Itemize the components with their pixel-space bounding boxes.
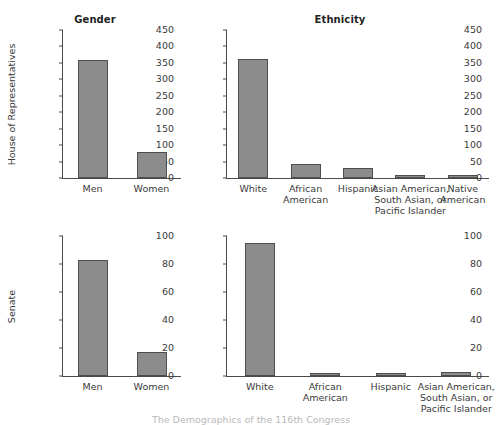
y-axis-tick: [223, 178, 227, 179]
y-axis-tick-label: 300: [156, 75, 174, 85]
y-axis-tick-label: 100: [156, 231, 174, 241]
figure-caption: The Demographics of the 116th Congress: [0, 414, 502, 425]
y-axis-label-house: House of Representatives: [6, 43, 17, 165]
x-axis-tick-label: Men: [64, 381, 122, 392]
bar: [238, 59, 268, 178]
bar: [291, 164, 321, 178]
y-axis-tick-label: 0: [168, 371, 174, 381]
x-axis-tick-label: Men: [64, 183, 122, 194]
y-axis-tick-label: 350: [464, 58, 482, 68]
y-axis-tick: [59, 145, 63, 146]
y-axis-tick-label: 60: [470, 287, 482, 297]
y-axis-tick-label: 250: [156, 91, 174, 101]
bar: [310, 373, 340, 376]
y-axis-tick-label: 450: [464, 25, 482, 35]
y-axis-tick-label: 80: [162, 259, 174, 269]
plot-area-senate-ethnicity: 020406080100WhiteAfrican AmericanHispani…: [226, 236, 489, 377]
y-axis-label-senate: Senate: [6, 289, 17, 322]
y-axis-tick: [223, 46, 227, 47]
y-axis-tick: [223, 348, 227, 349]
y-axis-tick: [59, 62, 63, 63]
y-axis-tick-label: 0: [168, 173, 174, 183]
y-axis-tick: [223, 112, 227, 113]
y-axis-tick: [59, 30, 63, 31]
x-axis-tick-label: Native American: [415, 183, 502, 205]
y-axis-tick-label: 300: [464, 75, 482, 85]
panel-senate-ethnicity: 020406080100WhiteAfrican AmericanHispani…: [190, 232, 502, 392]
y-axis-tick-label: 250: [464, 91, 482, 101]
y-axis-tick-label: 400: [156, 42, 174, 52]
y-axis-tick: [223, 161, 227, 162]
x-axis-tick-label: Women: [123, 381, 181, 392]
x-axis-tick-label: Asian American, South Asian, or Pacific …: [408, 381, 502, 414]
y-axis-tick: [59, 46, 63, 47]
bar: [78, 60, 108, 178]
x-axis-tick-label: Women: [123, 183, 181, 194]
y-axis-tick: [59, 95, 63, 96]
y-axis-tick: [59, 236, 63, 237]
bar: [137, 152, 167, 178]
y-axis-tick: [223, 95, 227, 96]
y-axis-tick-label: 150: [156, 124, 174, 134]
bar: [376, 373, 406, 376]
bar: [448, 175, 478, 178]
y-axis-tick-label: 100: [156, 140, 174, 150]
plot-area-senate-gender: 020406080100MenWomen: [62, 236, 181, 377]
y-axis-tick: [59, 376, 63, 377]
y-axis-tick-label: 350: [156, 58, 174, 68]
y-axis-tick-label: 150: [464, 124, 482, 134]
bar: [245, 243, 275, 376]
y-axis-tick: [223, 376, 227, 377]
y-axis-tick-label: 200: [156, 107, 174, 117]
y-axis-tick-label: 100: [464, 231, 482, 241]
y-axis-tick: [59, 292, 63, 293]
y-axis-tick: [223, 62, 227, 63]
y-axis-tick: [223, 30, 227, 31]
y-axis-tick: [223, 128, 227, 129]
bar: [78, 260, 108, 376]
y-axis-tick-label: 20: [470, 343, 482, 353]
y-axis-tick-label: 40: [470, 315, 482, 325]
y-axis-tick: [223, 79, 227, 80]
y-axis-tick: [59, 348, 63, 349]
y-axis-tick: [59, 264, 63, 265]
y-axis-tick: [59, 320, 63, 321]
y-axis-tick: [59, 79, 63, 80]
y-axis-tick-label: 80: [470, 259, 482, 269]
y-axis-tick: [223, 264, 227, 265]
bar: [395, 175, 425, 178]
plot-area-house-gender: 050100150200250300350400450MenWomen: [62, 30, 181, 179]
y-axis-tick: [59, 112, 63, 113]
y-axis-tick: [223, 292, 227, 293]
bar: [441, 372, 471, 376]
y-axis-tick: [59, 161, 63, 162]
y-axis-tick-label: 200: [464, 107, 482, 117]
y-axis-tick: [59, 128, 63, 129]
y-axis-tick: [223, 236, 227, 237]
panel-house-ethnicity: Ethnicity 050100150200250300350400450Whi…: [190, 14, 502, 190]
y-axis-tick-label: 40: [162, 315, 174, 325]
y-axis-tick-label: 50: [470, 157, 482, 167]
y-axis-tick-label: 60: [162, 287, 174, 297]
panel-house-gender: Gender House of Representatives 05010015…: [0, 14, 190, 190]
bar: [343, 168, 373, 178]
y-axis-tick-label: 0: [476, 371, 482, 381]
y-axis-tick: [59, 178, 63, 179]
panel-senate-gender: Senate 020406080100MenWomen: [0, 232, 190, 392]
panel-title-house-ethnicity: Ethnicity: [202, 14, 478, 25]
y-axis-tick-label: 400: [464, 42, 482, 52]
y-axis-tick-label: 100: [464, 140, 482, 150]
y-axis-tick: [223, 145, 227, 146]
y-axis-tick-label: 450: [156, 25, 174, 35]
y-axis-tick: [223, 320, 227, 321]
bar: [137, 352, 167, 376]
plot-area-house-ethnicity: 050100150200250300350400450WhiteAfrican …: [226, 30, 489, 179]
